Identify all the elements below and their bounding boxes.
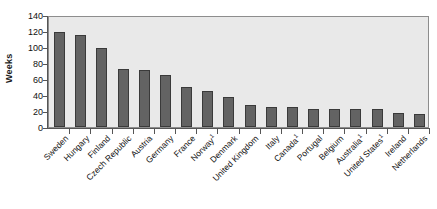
x-axis-tick-mark bbox=[302, 129, 303, 134]
bar bbox=[287, 107, 298, 127]
x-axis-tick-mark bbox=[133, 129, 134, 134]
x-axis-tick-mark bbox=[90, 129, 91, 134]
y-axis-tick-mark bbox=[43, 16, 48, 17]
y-axis-tick-label: 100 bbox=[17, 44, 43, 53]
x-axis-tick-mark bbox=[408, 129, 409, 134]
y-axis-tick-label: 0 bbox=[17, 124, 43, 133]
x-axis-tick-mark bbox=[429, 129, 430, 134]
x-axis-tick-mark bbox=[112, 129, 113, 134]
bar-chart: Weeks 140120100806040200 SwedenHungaryFi… bbox=[0, 0, 437, 209]
bar bbox=[223, 97, 234, 127]
x-axis-tick-mark bbox=[260, 129, 261, 134]
x-axis-tick-mark bbox=[175, 129, 176, 134]
y-axis-title: Weeks bbox=[2, 38, 16, 98]
x-axis-tick-mark bbox=[217, 129, 218, 134]
y-axis-tick-mark bbox=[43, 80, 48, 81]
bar bbox=[160, 75, 171, 127]
x-axis-tick-mark bbox=[281, 129, 282, 134]
bar bbox=[202, 91, 213, 127]
x-axis-tick-mark bbox=[387, 129, 388, 134]
y-axis-tick-label: 120 bbox=[17, 28, 43, 37]
y-axis-tick-label: 80 bbox=[17, 60, 43, 69]
y-axis-tick-mark bbox=[43, 112, 48, 113]
y-axis-tick-mark bbox=[43, 48, 48, 49]
y-axis-tick-mark bbox=[43, 32, 48, 33]
x-axis-tick-mark bbox=[323, 129, 324, 134]
bar bbox=[350, 109, 361, 127]
bar bbox=[372, 109, 383, 127]
x-axis-category-labels: SwedenHungaryFinlandCzech RepublicAustri… bbox=[48, 134, 437, 209]
bar bbox=[245, 105, 256, 127]
y-axis-tick-label: 40 bbox=[17, 92, 43, 101]
bar bbox=[266, 107, 277, 127]
x-axis-tick-mark bbox=[154, 129, 155, 134]
bars-container bbox=[49, 17, 428, 127]
bar bbox=[139, 70, 150, 127]
x-axis-tick-mark bbox=[344, 129, 345, 134]
x-axis-tick-mark bbox=[366, 129, 367, 134]
plot-area bbox=[48, 16, 429, 128]
y-axis-tick-label: 140 bbox=[17, 12, 43, 21]
bar bbox=[54, 32, 65, 127]
bar bbox=[329, 109, 340, 127]
y-axis-tick-mark bbox=[43, 128, 48, 129]
y-axis-tick-mark bbox=[43, 64, 48, 65]
x-axis-tick-mark bbox=[239, 129, 240, 134]
bar bbox=[75, 35, 86, 127]
y-axis-tick-labels: 140120100806040200 bbox=[17, 12, 43, 128]
y-axis-tick-label: 20 bbox=[17, 108, 43, 117]
x-axis-tick-mark bbox=[69, 129, 70, 134]
bar bbox=[414, 114, 425, 127]
bar bbox=[96, 48, 107, 127]
x-axis-tick-mark bbox=[196, 129, 197, 134]
y-axis-tick-mark bbox=[43, 96, 48, 97]
bar bbox=[393, 113, 404, 127]
bar bbox=[308, 109, 319, 127]
bar bbox=[118, 69, 129, 127]
y-axis-tick-label: 60 bbox=[17, 76, 43, 85]
bar bbox=[181, 87, 192, 127]
